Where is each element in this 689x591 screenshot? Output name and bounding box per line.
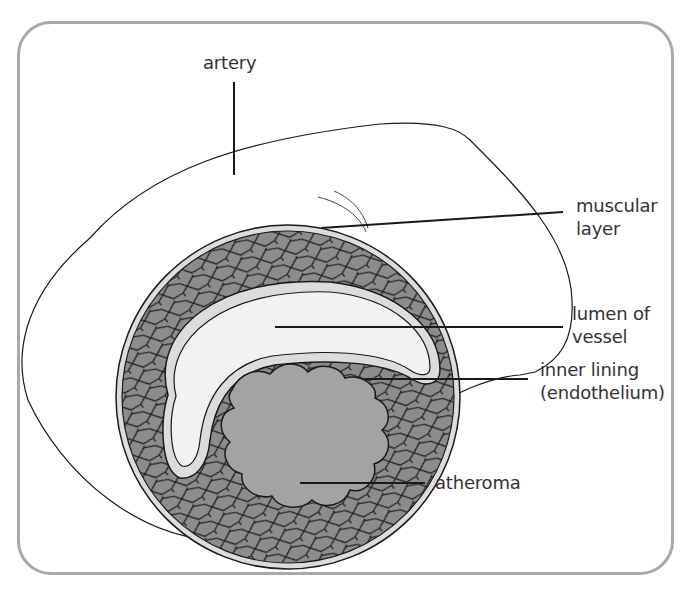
label-muscular-layer-line2: layer — [576, 218, 620, 240]
label-inner-lining-line1: inner lining — [540, 359, 639, 381]
label-muscular-layer-line1: muscular — [576, 195, 657, 217]
atheroma-shape — [221, 364, 388, 507]
artery-diagram — [0, 0, 689, 591]
label-atheroma: atheroma — [435, 472, 521, 494]
label-lumen-line1: lumen of — [572, 303, 650, 325]
label-lumen-line2: vessel — [572, 326, 627, 348]
label-inner-lining-line2: (endothelium) — [540, 382, 665, 404]
label-artery: artery — [203, 52, 256, 74]
